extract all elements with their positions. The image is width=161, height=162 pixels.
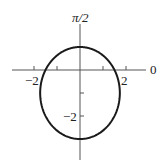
x-tick-label-pos2: 2 [121,74,128,87]
polar-axis-label: 0 [150,63,157,76]
top-fragment-label: 2 [58,0,64,2]
x-tick-label-neg2: −2 [25,74,39,87]
y-tick-label-neg2: −2 [63,110,77,123]
vertical-axis-label: π/2 [72,11,89,24]
y-ticks [80,93,84,116]
